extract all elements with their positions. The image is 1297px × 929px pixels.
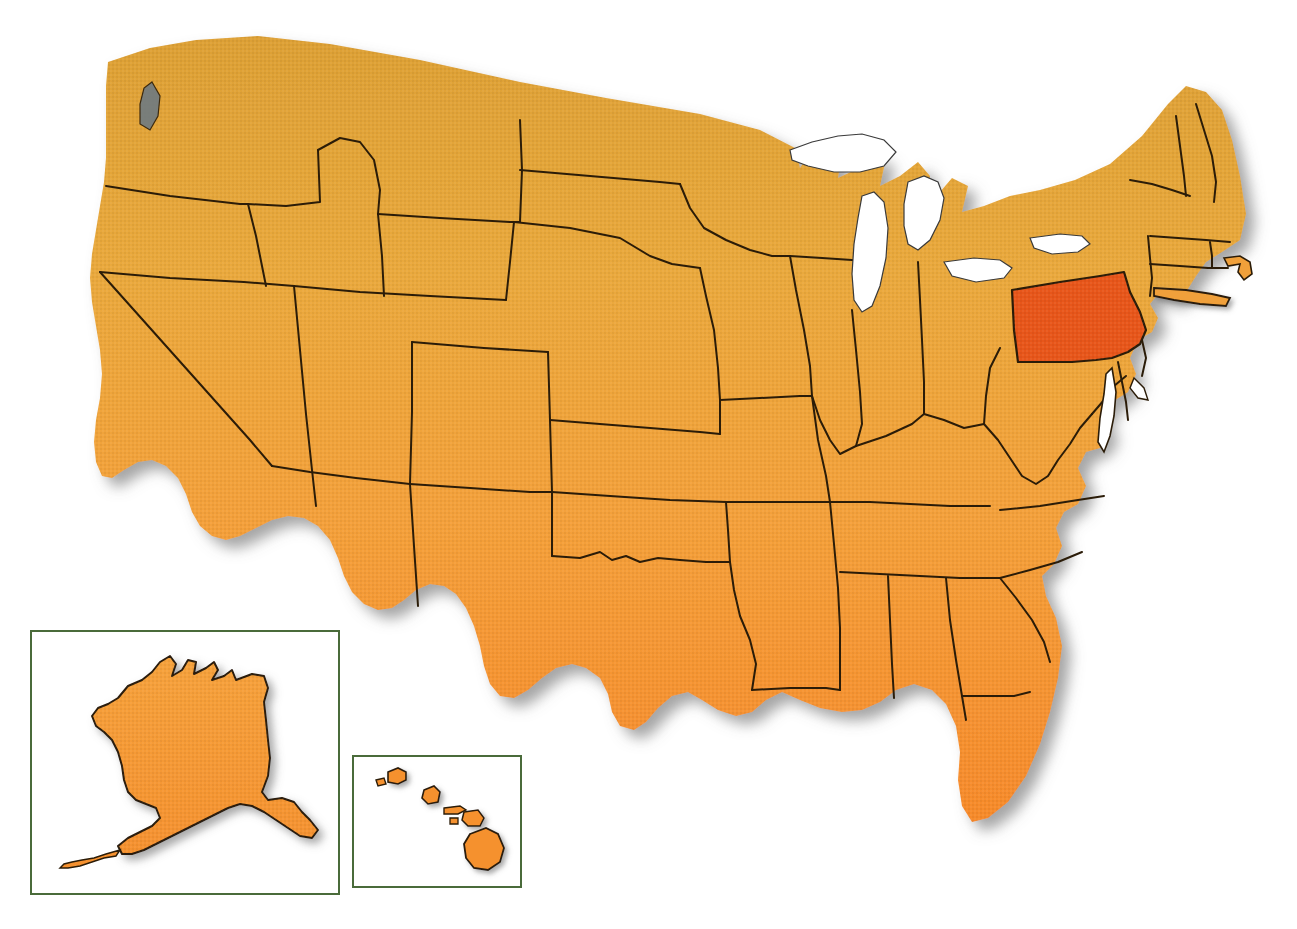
- us-map-canvas: [0, 0, 1297, 929]
- alaska-inset-box: [30, 630, 340, 895]
- long-island: [1154, 288, 1230, 306]
- delaware-bay: [1130, 378, 1148, 400]
- hawaii-inset-box: [352, 755, 522, 888]
